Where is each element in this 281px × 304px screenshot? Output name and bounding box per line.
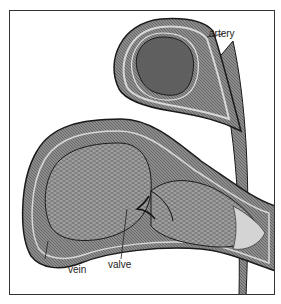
valve-label: valve xyxy=(108,260,131,270)
artery-label: artery xyxy=(209,29,235,39)
vessel-illustration xyxy=(10,11,275,295)
vein-label: vein xyxy=(68,265,86,275)
diagram-frame xyxy=(9,10,275,295)
